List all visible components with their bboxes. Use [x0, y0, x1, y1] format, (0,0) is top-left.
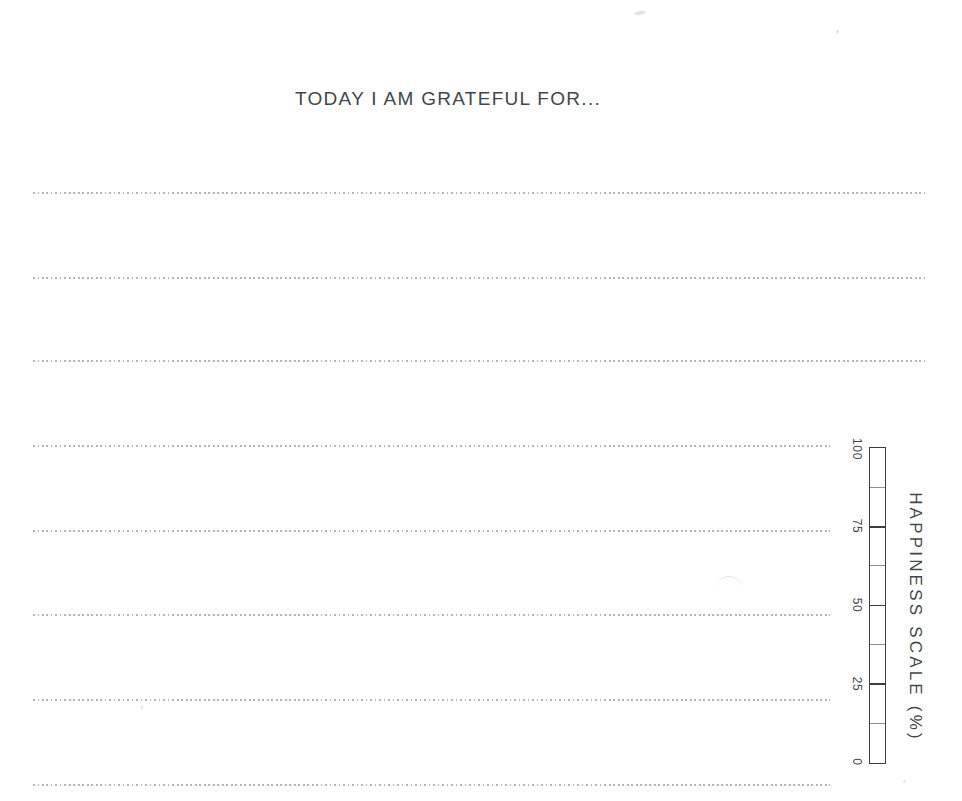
writing-line	[33, 614, 830, 616]
happiness-scale-caption: HAPPINESS SCALE (%)	[905, 492, 925, 742]
scan-speck	[836, 30, 839, 33]
scan-smudge	[716, 576, 742, 589]
ruler-tick-minor	[870, 723, 885, 724]
scan-speck	[634, 10, 646, 16]
journal-page: TODAY I AM GRATEFUL FOR... 100 75 50 25 …	[0, 0, 962, 801]
ruler-tick-25	[870, 683, 885, 685]
scale-label-25: 25	[850, 677, 864, 692]
writing-line	[33, 277, 925, 279]
scan-speck	[140, 705, 144, 710]
writing-line	[33, 445, 830, 447]
scale-label-75: 75	[850, 519, 864, 534]
writing-line	[33, 784, 830, 786]
scan-speck	[903, 780, 906, 783]
ruler-tick-minor	[870, 487, 885, 488]
ruler-tick-50	[870, 605, 885, 607]
ruler-tick-75	[870, 526, 885, 528]
writing-line	[33, 192, 925, 194]
scale-label-50: 50	[850, 598, 864, 613]
page-title: TODAY I AM GRATEFUL FOR...	[0, 88, 896, 110]
happiness-scale-ruler	[869, 447, 886, 764]
scale-label-100: 100	[850, 438, 864, 460]
writing-line	[33, 699, 830, 701]
writing-line	[33, 530, 830, 532]
ruler-tick-minor	[870, 565, 885, 566]
scale-label-0: 0	[850, 758, 864, 765]
writing-line	[33, 360, 925, 362]
ruler-tick-minor	[870, 644, 885, 645]
